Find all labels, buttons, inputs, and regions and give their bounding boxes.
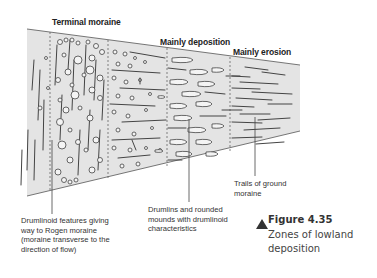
annotation-line: way to Rogen moraine [21, 226, 110, 236]
zone-label-terminal-moraine: Terminal moraine [52, 17, 121, 27]
triangle-up-icon [256, 219, 268, 229]
annotation-drumlins: Drumlins and rounded mounds with drumlin… [148, 205, 228, 234]
annotation-line: characteristics [148, 224, 228, 234]
zone-label-mainly-deposition: Mainly deposition [160, 37, 230, 47]
annotation-line: moraine [234, 189, 286, 199]
annotation-line: Drumlinoid features giving [21, 216, 110, 226]
figure-title-line: Zones of lowland [268, 228, 353, 242]
zone-label-mainly-erosion: Mainly erosion [233, 47, 291, 57]
annotation-trails: Trails of ground moraine [234, 179, 286, 198]
annotation-line: (moraine transverse to the [21, 235, 110, 245]
annotation-line: mounds with drumlinoid [148, 215, 228, 225]
figure-number: Figure 4.35 [268, 214, 332, 225]
annotation-line: Drumlins and rounded [148, 205, 228, 215]
annotation-line: direction of flow) [21, 245, 110, 255]
figure-title-line: deposition [268, 242, 353, 256]
figure-title: Zones of lowland deposition [268, 228, 353, 256]
annotation-line: Trails of ground [234, 179, 286, 189]
annotation-drumlinoid: Drumlinoid features giving way to Rogen … [21, 216, 110, 254]
